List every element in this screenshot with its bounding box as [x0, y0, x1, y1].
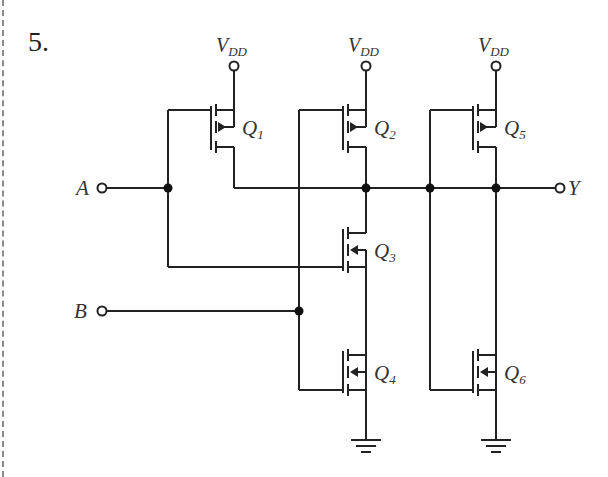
transistor-q6 [430, 188, 496, 440]
vdd-label-1: VDD [216, 34, 248, 59]
vdd-terminal-3 [492, 62, 501, 71]
junction-dot [295, 307, 304, 316]
label-input-a: A [74, 176, 89, 200]
junction-dot [426, 184, 435, 193]
transistor-q3 [168, 188, 366, 355]
label-input-b: B [74, 299, 87, 323]
label-q3: Q3 [374, 239, 396, 265]
label-q2: Q2 [374, 116, 396, 142]
transistor-q2 [299, 70, 366, 390]
ground-icon [481, 440, 511, 452]
transistor-q4 [299, 349, 366, 440]
transistor-q1 [168, 70, 234, 267]
output-terminal-y [556, 184, 565, 193]
label-output-y: Y [568, 176, 582, 200]
label-q5: Q5 [504, 116, 526, 142]
vdd-terminal-1 [230, 62, 239, 71]
label-q6: Q6 [504, 361, 526, 387]
transistor-q5 [430, 70, 496, 390]
vdd-label-3: VDD [478, 34, 510, 59]
input-terminal-b [98, 307, 107, 316]
input-terminal-a [98, 184, 107, 193]
junction-dot [164, 184, 173, 193]
junction-dot [492, 184, 501, 193]
vdd-terminal-2 [362, 62, 371, 71]
junction-dot [362, 184, 371, 193]
ground-icon [351, 440, 381, 452]
label-q1: Q1 [242, 116, 264, 142]
label-q4: Q4 [374, 361, 396, 387]
cmos-circuit-diagram: VDD VDD VDD Q1 Q2 Q3 Q4 Q5 Q6 A B Y [0, 0, 608, 477]
vdd-label-2: VDD [348, 34, 380, 59]
